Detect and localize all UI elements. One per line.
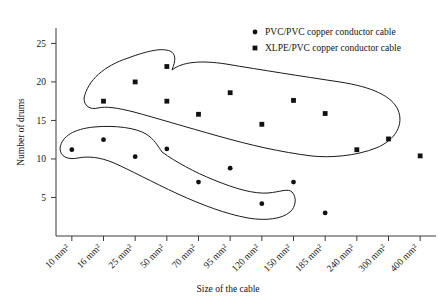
data-point-circle xyxy=(69,147,74,152)
x-tick-label: 185 mm² xyxy=(293,242,324,273)
data-point-square xyxy=(291,98,296,103)
legend-marker-circle-icon xyxy=(253,30,258,35)
pvc-cluster-outline xyxy=(60,126,295,219)
chart-canvas: 510152025 10 mm²16 mm²25 mm²50 mm²70 mm²… xyxy=(0,0,446,303)
data-point-square xyxy=(164,64,169,69)
data-point-square xyxy=(323,111,328,116)
data-point-square xyxy=(196,112,201,117)
data-point-square xyxy=(418,153,423,158)
legend-label-xlpe: XLPE/PVC copper conductor cable xyxy=(265,43,401,53)
scatter-chart-figure: 510152025 10 mm²16 mm²25 mm²50 mm²70 mm²… xyxy=(0,0,446,303)
y-axis-title: Number of drums xyxy=(16,98,26,166)
data-point-circle xyxy=(228,166,233,171)
data-point-square xyxy=(386,137,391,142)
y-tick-label: 10 xyxy=(37,154,47,164)
data-point-square xyxy=(133,80,138,85)
data-point-circle xyxy=(101,137,106,142)
data-point-circle xyxy=(164,147,169,152)
data-point-square xyxy=(354,147,359,152)
x-tick-label: 25 mm² xyxy=(107,242,135,270)
pvc-data-points xyxy=(69,137,327,215)
data-point-circle xyxy=(133,154,138,159)
legend-marker-square-icon xyxy=(253,46,258,51)
y-tick-label: 20 xyxy=(37,77,47,87)
x-tick-label: 240 mm² xyxy=(325,242,356,273)
y-tick-label: 25 xyxy=(37,39,47,49)
data-point-square xyxy=(228,90,233,95)
legend-label-pvc: PVC/PVC copper conductor cable xyxy=(265,27,396,37)
xlpe-cluster-outline xyxy=(84,50,400,157)
x-tick-label: 120 mm² xyxy=(230,242,261,273)
data-point-square xyxy=(259,122,264,127)
x-tick-label: 150 mm² xyxy=(262,242,293,273)
x-tick-label: 16 mm² xyxy=(75,242,103,270)
y-tick-label: 5 xyxy=(41,193,46,203)
x-tick-label: 10 mm² xyxy=(43,242,71,270)
chart-legend: PVC/PVC copper conductor cable XLPE/PVC … xyxy=(253,27,401,53)
data-point-square xyxy=(101,99,106,104)
x-axis-title: Size of the cable xyxy=(196,284,259,294)
x-axis-ticks: 10 mm²16 mm²25 mm²50 mm²70 mm²95 mm²120 … xyxy=(43,236,420,274)
data-point-circle xyxy=(323,210,328,215)
xlpe-data-points xyxy=(101,64,422,158)
x-tick-label: 50 mm² xyxy=(138,242,166,270)
data-point-square xyxy=(164,99,169,104)
data-point-circle xyxy=(259,201,264,206)
data-point-circle xyxy=(291,180,296,185)
x-tick-label: 70 mm² xyxy=(170,242,198,270)
y-axis-ticks: 510152025 xyxy=(37,39,57,203)
x-tick-label: 95 mm² xyxy=(202,242,230,270)
x-tick-label: 300 mm² xyxy=(357,242,388,273)
data-point-circle xyxy=(196,180,201,185)
x-tick-label: 400 mm² xyxy=(388,242,419,273)
y-tick-label: 15 xyxy=(37,116,47,126)
